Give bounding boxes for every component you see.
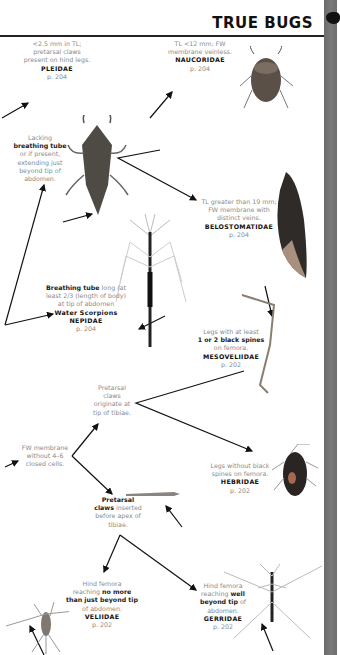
caption-line: tibiae. <box>88 521 148 529</box>
page-reference: p. 202 <box>62 621 142 629</box>
page-reference: p. 204 <box>38 325 134 333</box>
caption-line: Legs with at least <box>192 328 270 336</box>
family-name: MESOVELIIDAE <box>192 353 270 361</box>
veliidae-caption: Hind femora reaching no more than just b… <box>62 580 142 629</box>
caption-line: closed cells. <box>18 460 72 468</box>
caption-line: without 4–6 <box>18 452 72 460</box>
caption-line: TL <12 mm; FW <box>160 40 240 48</box>
caption-text: reaching <box>73 588 102 595</box>
caption-line: abdomen. <box>194 607 252 615</box>
veliidae-illustration <box>4 596 69 654</box>
caption-line: originate at <box>88 400 136 408</box>
caption-line: or if present, <box>10 150 70 158</box>
family-name: NAUCORIDAE <box>160 56 240 64</box>
pretarsal-tip-caption: Pretarsal claws originate at tip of tibi… <box>88 384 136 417</box>
caption-line: least 2/3 (length of body) <box>38 292 134 300</box>
naucoridae-caption: TL <12 mm; FW membrane veinless. NAUCORI… <box>160 40 240 73</box>
caption-line: Pretarsal <box>88 384 136 392</box>
caption-emphasis: than just beyond tip <box>66 596 138 603</box>
caption-line: beyond tip of <box>10 167 70 175</box>
caption-emphasis: Pretarsal <box>102 496 135 503</box>
pretarsal-before-caption: Pretarsal claws inserted before apex of … <box>88 496 148 529</box>
caption-line: of abdomen. <box>62 605 142 613</box>
family-name: BELOSTOMATIDAE <box>198 223 280 231</box>
caption-emphasis: claws <box>94 504 114 511</box>
page-reference: p. 202 <box>202 487 278 495</box>
fw-membrane-caption: FW membrane without 4–6 closed cells. <box>18 444 72 469</box>
page-reference: p. 202 <box>192 361 270 369</box>
caption-line: Hind femora <box>194 582 252 590</box>
caption-line: tip of tibiae. <box>88 409 136 417</box>
caption-line: extending just <box>10 159 70 167</box>
page-reference: p. 204 <box>198 231 280 239</box>
mesoveliidae-caption: Legs with at least 1 or 2 black spines o… <box>192 328 270 369</box>
family-name: PLEIDAE <box>12 65 102 73</box>
caption-line: FW membrane <box>18 444 72 452</box>
caption-line: TL greater than 19 mm; <box>198 198 280 206</box>
belostomatidae-caption: TL greater than 19 mm; FW membrane with … <box>198 198 280 239</box>
caption-emphasis: Breathing tube <box>46 284 100 291</box>
caption-line: <2.5 mm in TL; <box>12 40 102 48</box>
caption-line: pretarsal claws <box>12 48 102 56</box>
nepidae-caption: Breathing tube long (at least 2/3 (lengt… <box>38 284 134 333</box>
family-name: NEPIDAE <box>38 317 134 325</box>
naucoridae-illustration <box>238 46 298 116</box>
caption-line: Legs without black <box>202 462 278 470</box>
caption-line: claws <box>88 392 136 400</box>
caption-line: membrane veinless. <box>160 48 240 56</box>
page-reference: p. 204 <box>12 73 102 81</box>
pleidae-caption: <2.5 mm in TL; pretarsal claws present o… <box>12 40 102 81</box>
caption-line: distinct veins. <box>198 214 280 222</box>
belostomatid-water-bug-illustration <box>62 115 132 225</box>
page-reference: p. 204 <box>160 65 240 73</box>
caption-text: reaching <box>201 590 230 597</box>
caption-text: inserted <box>114 504 142 511</box>
caption-emphasis: breathing tube <box>13 142 66 149</box>
family-name: VELIIDAE <box>62 613 142 621</box>
caption-line: Lacking <box>10 134 70 142</box>
caption-text: long (at <box>100 284 126 291</box>
lacking-breathing-tube-caption: Lacking breathing tube or if present, ex… <box>10 134 70 183</box>
caption-line: on femora. <box>192 344 270 352</box>
family-name: GERRIDAE <box>194 615 252 623</box>
page-reference: p. 202 <box>194 623 252 631</box>
caption-emphasis: beyond tip <box>200 598 238 605</box>
caption-line: abdomen. <box>10 175 70 183</box>
caption-line: Hind femora <box>62 580 142 588</box>
hebridae-caption: Legs without black spines on femora. HEB… <box>202 462 278 495</box>
caption-emphasis: 1 or 2 black spines <box>198 336 265 343</box>
caption-line: at tip of abdomen <box>38 300 134 308</box>
common-name: Water Scorpions <box>38 309 134 317</box>
family-name: HEBRIDAE <box>202 478 278 486</box>
caption-emphasis: well <box>230 590 244 597</box>
caption-text: of <box>238 598 246 605</box>
caption-line: present on hind legs. <box>12 56 102 64</box>
caption-line: before apex of <box>88 512 148 520</box>
caption-line: FW membrane with <box>198 206 280 214</box>
caption-emphasis: no more <box>102 588 131 595</box>
caption-line: spines on femora. <box>202 470 278 478</box>
gerridae-caption: Hind femora reaching well beyond tip of … <box>194 582 252 631</box>
